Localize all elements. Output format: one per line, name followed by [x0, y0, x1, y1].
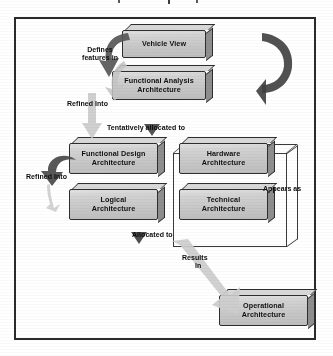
label-line2: features in	[82, 54, 118, 61]
box-front-face: Technical Architecture	[179, 189, 268, 220]
box-side-face	[268, 141, 275, 177]
node-label-line2: Architecture	[202, 158, 246, 167]
connector-label-refined-into-top: Refined Into	[67, 100, 108, 108]
node-label-line2: Architecture	[92, 204, 136, 213]
arrow-refined-into-left	[38, 152, 82, 212]
box-side-face	[206, 69, 213, 103]
node-label-line2: Architecture	[137, 85, 181, 94]
box-front-face: Logical Architecture	[69, 189, 158, 220]
connector-label-refined-into-left: Refined Into	[26, 173, 67, 181]
box-side-face	[158, 141, 165, 177]
container-side-face	[287, 145, 298, 247]
box-front-face: Functional Design Architecture	[69, 143, 158, 174]
connector-label-defines-features-in: Defines features in	[74, 46, 126, 63]
node-label-line2: Architecture	[242, 310, 286, 319]
node-label: Hardware Architecture	[199, 150, 249, 166]
box-side-face	[206, 28, 213, 61]
cropped-title-descenders	[0, 0, 333, 6]
node-label: Vehicle View	[139, 40, 189, 48]
connector-label-allocated-to: Allocated to	[132, 231, 173, 239]
node-technical-architecture[interactable]: Technical Architecture	[179, 189, 268, 220]
node-label-line2: Architecture	[202, 204, 246, 213]
label-line1: Results	[182, 254, 208, 261]
arrow-appears-as	[256, 31, 300, 107]
arrow-defines-features-in	[94, 27, 140, 101]
node-logical-architecture[interactable]: Logical Architecture	[69, 189, 158, 220]
box-side-face	[308, 293, 315, 329]
node-hardware-architecture[interactable]: Hardware Architecture	[179, 143, 268, 174]
box-side-face	[158, 187, 165, 223]
node-label: Logical Architecture	[89, 196, 139, 212]
box-front-face: Hardware Architecture	[179, 143, 268, 174]
diagram-frame: Vehicle View Functional Analysis Archite…	[14, 17, 316, 340]
label-line2: In	[195, 262, 201, 270]
arrow-results-in	[164, 239, 248, 319]
connector-label-tentatively-allocated-to: Tentatively allocated to	[107, 124, 185, 132]
label-line1: Defines	[87, 46, 113, 53]
node-label: Functional Design Architecture	[79, 150, 149, 166]
connector-label-appears-as: Appears as	[263, 185, 301, 193]
node-label: Technical Architecture	[199, 196, 249, 212]
node-label-line2: Architecture	[92, 158, 136, 167]
node-functional-design-architecture[interactable]: Functional Design Architecture	[69, 143, 158, 174]
connector-label-results-in: Results In	[182, 254, 222, 271]
